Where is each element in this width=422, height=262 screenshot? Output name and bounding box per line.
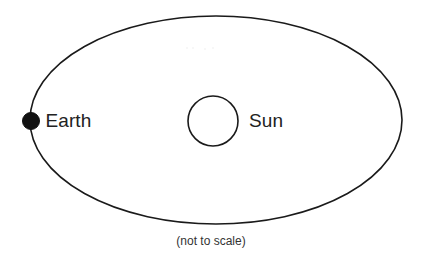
sun-label: Sun: [249, 111, 283, 130]
scan-artifact-speck: [192, 47, 194, 49]
scan-artifact-speck: [204, 48, 206, 50]
sun-circle: [188, 96, 238, 146]
orbit-diagram-canvas: [0, 0, 422, 262]
earth-label: Earth: [46, 111, 92, 130]
scan-artifact-speck: [212, 47, 214, 49]
orbit-diagram: Earth Sun (not to scale): [0, 0, 422, 262]
not-to-scale-caption: (not to scale): [0, 234, 422, 248]
earth-dot: [23, 113, 40, 130]
scan-artifact-speck: [186, 47, 188, 49]
